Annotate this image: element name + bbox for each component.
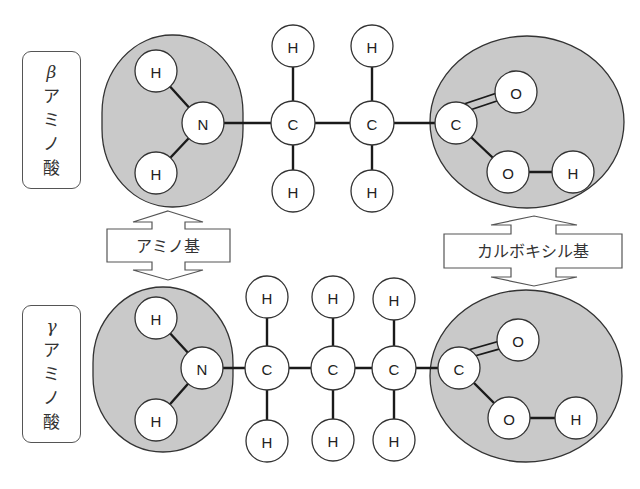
oxygen-atom: O: [495, 71, 537, 113]
oxygen-atom: O: [497, 319, 539, 361]
carbon-atom: C: [372, 346, 416, 390]
svg-text:H: H: [328, 433, 339, 450]
svg-text:H: H: [389, 292, 400, 309]
svg-text:O: O: [502, 165, 514, 182]
svg-text:H: H: [151, 413, 162, 430]
svg-text:H: H: [389, 433, 400, 450]
svg-text:C: C: [389, 361, 400, 378]
svg-text:C: C: [451, 116, 462, 133]
svg-text:O: O: [510, 85, 522, 102]
oxygen-atom: O: [488, 397, 530, 439]
svg-text:O: O: [503, 411, 515, 428]
hydrogen-atom: H: [246, 276, 288, 318]
svg-text:H: H: [151, 166, 162, 183]
hydrogen-atom: H: [135, 297, 177, 339]
svg-text:N: N: [198, 116, 209, 133]
svg-text:H: H: [262, 434, 273, 451]
amino-group-arrow: アミノ基: [107, 211, 230, 280]
carbon-atom: C: [350, 101, 394, 145]
carboxyl-group-arrow: カルボキシル基: [444, 216, 622, 286]
svg-text:H: H: [151, 311, 162, 328]
hydrogen-atom: H: [373, 278, 415, 320]
svg-text:H: H: [328, 290, 339, 307]
carbon-atom: C: [435, 102, 477, 144]
svg-text:H: H: [288, 39, 299, 56]
svg-text:H: H: [367, 39, 378, 56]
amino-group-label: アミノ基: [136, 237, 200, 256]
nitrogen-atom: N: [181, 347, 223, 389]
svg-text:H: H: [367, 184, 378, 201]
hydrogen-atom: H: [351, 25, 393, 67]
hydrogen-atom: H: [351, 170, 393, 212]
hydrogen-atom: H: [373, 419, 415, 461]
beta-molecule: H N H C H H C H H C O O H: [102, 25, 624, 212]
carbon-atom: C: [245, 346, 289, 390]
svg-text:H: H: [262, 290, 273, 307]
svg-text:C: C: [328, 361, 339, 378]
svg-text:H: H: [288, 184, 299, 201]
gamma-molecule: H N H C H H C H H C H H C O O H: [93, 276, 622, 462]
hydrogen-atom: H: [552, 151, 594, 193]
svg-text:N: N: [197, 361, 208, 378]
svg-text:C: C: [454, 361, 465, 378]
svg-text:C: C: [262, 361, 273, 378]
hydrogen-atom: H: [312, 419, 354, 461]
carbon-atom: C: [311, 346, 355, 390]
hydrogen-atom: H: [135, 50, 177, 92]
svg-text:H: H: [568, 165, 579, 182]
hydrogen-atom: H: [555, 397, 597, 439]
svg-text:C: C: [288, 116, 299, 133]
carbon-atom: C: [271, 101, 315, 145]
svg-text:H: H: [571, 411, 582, 428]
hydrogen-atom: H: [272, 25, 314, 67]
hydrogen-atom: H: [246, 420, 288, 462]
hydrogen-atom: H: [272, 170, 314, 212]
carboxyl-group-label: カルボキシル基: [477, 242, 589, 261]
hydrogen-atom: H: [135, 152, 177, 194]
nitrogen-atom: N: [182, 102, 224, 144]
hydrogen-atom: H: [135, 399, 177, 441]
amino-acid-structure-diagram: H N H C H H C H H C O O H アミノ基 カルボキシル基: [0, 0, 640, 489]
svg-text:O: O: [512, 333, 524, 350]
svg-text:C: C: [367, 116, 378, 133]
oxygen-atom: O: [487, 151, 529, 193]
hydrogen-atom: H: [312, 276, 354, 318]
carbon-atom: C: [438, 347, 480, 389]
svg-text:H: H: [151, 64, 162, 81]
